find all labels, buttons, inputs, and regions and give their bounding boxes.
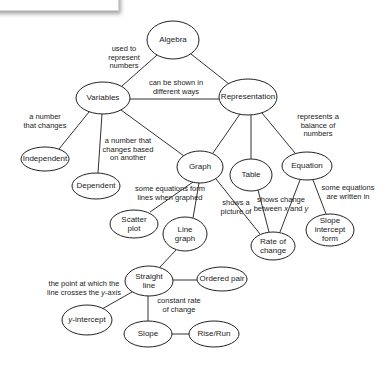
edge-variables-dependent (98, 114, 102, 173)
node-dependent: Dependent (72, 173, 120, 199)
link-label-can-be-shown: can be shown indifferent ways (149, 78, 203, 96)
node-label: Slope (320, 216, 341, 225)
link-label-line: on another (110, 153, 146, 162)
node-graph: Graph (177, 151, 223, 183)
node-label: Representation (221, 92, 275, 101)
node-label: form (322, 234, 338, 243)
link-label-line: picture of (221, 207, 253, 216)
edge-linegraph-straightline (160, 250, 176, 267)
node-independent: Independent (21, 147, 69, 171)
link-label-line: different ways (153, 87, 199, 96)
link-label-shows-a-picture-of: shows apicture of (221, 198, 253, 216)
node-label: Ordered pair (200, 274, 245, 283)
node-label: intercept (315, 225, 346, 234)
link-label-line: lines when graphed (137, 193, 202, 202)
node-label: Slope (138, 329, 159, 338)
node-label: Variables (87, 93, 120, 102)
node-label: Dependent (76, 181, 116, 190)
link-label-line: line crosses the y-axis (47, 288, 121, 297)
node-label: Independent (23, 154, 68, 163)
node-label: Rate of (260, 237, 287, 246)
node-label: change (260, 246, 287, 255)
node-line-graph: Linegraph (163, 217, 207, 251)
node-representation: Representation (219, 79, 277, 115)
concept-map: AlgebraVariablesRepresentationIndependen… (0, 0, 388, 368)
link-label-represents-balance: represents abalance ofnumbers (297, 112, 340, 138)
node-slope-intercept-form: Slopeinterceptform (306, 214, 354, 246)
node-straight-line: Straightline (125, 266, 173, 296)
link-label-some-equations-written: some equationsare written in (322, 183, 375, 201)
node-label: Rise/Run (198, 329, 231, 338)
node-label: Scatter (121, 215, 147, 224)
node-label: Equation (291, 161, 323, 170)
node-label: plot (128, 224, 142, 233)
node-label: Graph (189, 162, 211, 171)
link-label-shows-change-between: shows changebetween x and y (254, 195, 310, 213)
node-label: y-intercept (67, 315, 106, 324)
node-label: Line (177, 225, 193, 234)
node-rise-run: Rise/Run (189, 321, 239, 347)
node-label: line (143, 281, 156, 290)
node-variables: Variables (76, 82, 130, 114)
edge-variables-independent (59, 112, 89, 149)
link-label-line: that changes (24, 121, 67, 130)
node-equation: Equation (282, 152, 332, 180)
node-label: graph (175, 234, 195, 243)
link-label-line: between x and y (254, 204, 310, 213)
edge-representation-equation (262, 113, 295, 153)
node-rate-of-change: Rate ofchange (251, 232, 295, 260)
node-label: Straight (135, 272, 163, 281)
link-label-line: of change (163, 305, 196, 314)
node-table: Table (230, 159, 272, 191)
node-label: Table (241, 170, 261, 179)
node-label: Algebra (159, 35, 187, 44)
link-label-point-crosses-y-axis: the point at which theline crosses the y… (47, 279, 121, 297)
link-label-some-equations-form-lines: some equations formlines when graphed (135, 184, 205, 202)
edge-representation-graph (213, 114, 240, 153)
node-algebra: Algebra (147, 21, 199, 59)
node-y-intercept: y-intercept (62, 305, 112, 335)
link-label-line: numbers (303, 129, 332, 138)
node-ordered-pair: Ordered pair (197, 267, 247, 291)
node-slope: Slope (124, 321, 172, 347)
link-label-a-number-that-changes: a numberthat changes (24, 112, 67, 130)
link-label-changes-based-on-another: a number thatchanges basedon another (103, 136, 154, 162)
link-label-used-to-represent: used torepresentnumbers (108, 44, 141, 70)
link-label-line: numbers (109, 61, 138, 70)
link-label-constant-rate: constant rateof change (157, 296, 200, 314)
link-label-line: are written in (327, 192, 370, 201)
node-scatter-plot: Scatterplot (110, 210, 158, 238)
